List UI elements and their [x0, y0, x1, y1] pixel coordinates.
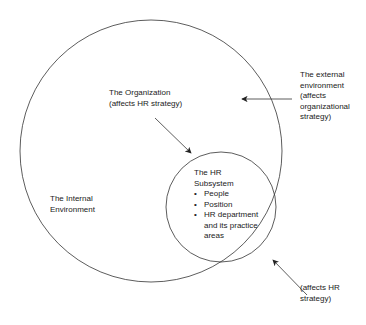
label-line: strategy)	[300, 112, 350, 123]
hr-strategy-label: (affects HR strategy)	[300, 283, 340, 304]
label-line: (affects	[300, 91, 350, 102]
list-item-continuation: and its practice	[194, 221, 258, 232]
external-environment-label: The external environment (affects organi…	[300, 70, 350, 123]
diagram: The Internal Environment The Organizatio…	[0, 0, 366, 325]
internal-environment-label: The Internal Environment	[50, 194, 95, 215]
label-line: strategy)	[300, 294, 340, 305]
organization-label: The Organization (affects HR strategy)	[109, 88, 182, 109]
label-line: The Organization	[109, 88, 182, 99]
hr-subsystem-list: People Position HR department	[194, 189, 258, 221]
hr-subsystem-label: The HR Subsystem People Position HR depa…	[194, 168, 258, 242]
list-item: People	[194, 189, 258, 200]
internal-environment-circle	[20, 20, 282, 282]
label-line: The external	[300, 70, 350, 81]
list-item-continuation: areas	[194, 231, 258, 242]
list-item: Position	[194, 200, 258, 211]
label-line: (affects HR	[300, 283, 340, 294]
list-item: HR department	[194, 210, 258, 221]
label-line: Environment	[50, 205, 95, 216]
organization-arrow	[155, 118, 191, 153]
label-line: Subsystem	[194, 179, 258, 190]
label-line: (affects HR strategy)	[109, 99, 182, 110]
diagram-shapes	[0, 0, 366, 325]
label-line: environment	[300, 81, 350, 92]
label-line: organizational	[300, 102, 350, 113]
label-line: The Internal	[50, 194, 95, 205]
label-line: The HR	[194, 168, 258, 179]
